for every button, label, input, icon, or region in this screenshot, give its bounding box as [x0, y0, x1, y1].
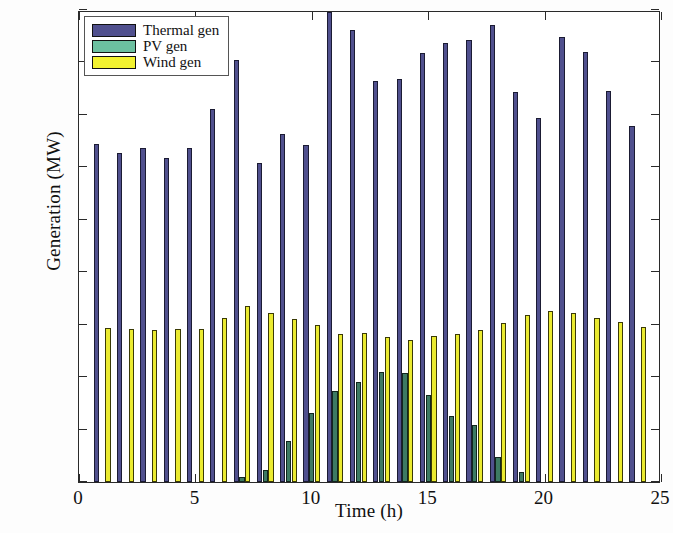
bar-thermal-h4: [164, 158, 169, 482]
bar-wind-h12: [362, 333, 367, 482]
x-axis-tick-label: 0: [48, 487, 108, 509]
bar-wind-h20: [548, 311, 553, 482]
x-axis-tick-label: 20: [514, 487, 574, 509]
bar-wind-h16: [455, 334, 460, 482]
y-axis-tick: [79, 9, 87, 10]
bar-wind-h1: [105, 328, 110, 482]
bar-wind-h7: [245, 306, 250, 482]
bar-pv-h13: [379, 372, 384, 482]
bar-thermal-h18: [490, 25, 495, 482]
bar-wind-h18: [501, 323, 506, 482]
bar-pv-h7: [239, 477, 244, 482]
x-axis-tick-label: 10: [281, 487, 341, 509]
bar-thermal-h13: [373, 81, 378, 482]
bar-pv-h18: [495, 457, 500, 482]
bar-thermal-h8: [257, 163, 262, 482]
y-axis-tick: [651, 9, 659, 10]
plot-area: [78, 11, 660, 483]
bar-thermal-h17: [466, 40, 471, 482]
x-axis-tick: [661, 12, 662, 20]
bar-thermal-h1: [94, 144, 99, 482]
bar-thermal-h12: [350, 30, 355, 482]
bar-pv-h12: [356, 382, 361, 482]
bar-thermal-h11: [327, 12, 332, 482]
bar-wind-h8: [268, 313, 273, 482]
legend-item-wind: Wind gen: [92, 54, 219, 70]
bar-thermal-h3: [140, 148, 145, 482]
bar-wind-h14: [408, 340, 413, 482]
bar-wind-h11: [338, 334, 343, 482]
legend-label: PV gen: [143, 39, 187, 54]
bar-pv-h11: [332, 391, 337, 482]
bar-thermal-h5: [187, 148, 192, 482]
x-axis-tick-label: 15: [397, 487, 457, 509]
bar-thermal-h6: [210, 109, 215, 482]
bar-thermal-h19: [513, 92, 518, 482]
bar-wind-h15: [431, 336, 436, 482]
bar-pv-h10: [309, 413, 314, 482]
legend-swatch-thermal-icon: [92, 24, 136, 37]
bar-wind-h4: [175, 329, 180, 482]
bar-thermal-h21: [559, 37, 564, 482]
legend-item-thermal: Thermal gen: [92, 22, 219, 38]
chart-legend: Thermal genPV genWind gen: [84, 16, 229, 76]
bar-thermal-h22: [583, 52, 588, 482]
y-axis-title: Generation (MW): [43, 51, 65, 351]
bar-pv-h15: [426, 395, 431, 482]
bar-pv-h9: [286, 441, 291, 482]
bar-wind-h6: [222, 318, 227, 482]
bar-wind-h17: [478, 330, 483, 482]
legend-label: Thermal gen: [143, 23, 219, 38]
x-axis-tick-label: 25: [630, 487, 673, 509]
bar-wind-h3: [152, 330, 157, 482]
x-axis-tick: [661, 474, 662, 482]
legend-swatch-wind-icon: [92, 56, 136, 69]
bar-thermal-h23: [606, 91, 611, 482]
bar-chart-figure: Generation (MW) Time (h) 010020030040050…: [0, 0, 673, 533]
x-axis-tick-label: 5: [164, 487, 224, 509]
bar-wind-h24: [641, 327, 646, 482]
bar-wind-h5: [199, 329, 204, 482]
bar-thermal-h7: [234, 60, 239, 482]
legend-item-pv: PV gen: [92, 38, 219, 54]
bar-wind-h2: [129, 329, 134, 482]
bar-thermal-h9: [280, 134, 285, 482]
bar-wind-h13: [385, 337, 390, 482]
legend-label: Wind gen: [143, 55, 201, 70]
bar-pv-h17: [472, 425, 477, 482]
bar-thermal-h15: [420, 53, 425, 482]
bar-wind-h22: [594, 318, 599, 482]
bar-thermal-h24: [629, 126, 634, 482]
legend-swatch-pv-icon: [92, 40, 136, 53]
bar-wind-h21: [571, 313, 576, 482]
bar-thermal-h2: [117, 153, 122, 482]
bar-thermal-h16: [443, 43, 448, 482]
bar-pv-h16: [449, 416, 454, 482]
bar-pv-h14: [402, 373, 407, 482]
bar-thermal-h20: [536, 118, 541, 482]
bar-pv-h8: [263, 470, 268, 482]
bar-wind-h23: [618, 322, 623, 482]
bar-series-container: [79, 12, 659, 482]
bar-wind-h9: [292, 319, 297, 482]
bar-thermal-h14: [397, 79, 402, 482]
bar-thermal-h10: [303, 145, 308, 482]
bar-wind-h10: [315, 325, 320, 482]
bar-wind-h19: [525, 315, 530, 482]
bar-pv-h19: [519, 472, 524, 482]
